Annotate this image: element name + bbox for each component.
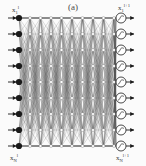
hidden-node xyxy=(92,129,95,132)
input-node[interactable] xyxy=(16,63,22,69)
hidden-node xyxy=(50,113,53,116)
hidden-node xyxy=(113,129,116,132)
hidden-node xyxy=(60,145,63,148)
output-node[interactable] xyxy=(116,109,126,119)
hidden-node xyxy=(29,49,32,52)
input-node[interactable] xyxy=(16,95,22,101)
hidden-node xyxy=(29,81,32,84)
hidden-node xyxy=(102,81,105,84)
hidden-node xyxy=(81,49,84,52)
input-arrowhead xyxy=(13,96,17,100)
hidden-node xyxy=(92,113,95,116)
output-arrowhead xyxy=(130,16,134,20)
hidden-node xyxy=(29,17,32,20)
hidden-node xyxy=(113,17,116,20)
output-arrowhead xyxy=(130,64,134,68)
hidden-node xyxy=(92,97,95,100)
hidden-node xyxy=(113,49,116,52)
hidden-node xyxy=(29,33,32,36)
hidden-node xyxy=(39,113,42,116)
hidden-node xyxy=(71,65,74,68)
input-node[interactable] xyxy=(16,143,22,149)
input-arrowhead xyxy=(13,48,17,52)
hidden-node xyxy=(39,145,42,148)
output-node[interactable] xyxy=(116,125,126,135)
hidden-node xyxy=(39,129,42,132)
hidden-node xyxy=(60,17,63,20)
hidden-node xyxy=(81,145,84,148)
hidden-node xyxy=(92,81,95,84)
output-arrowhead xyxy=(130,112,134,116)
output-arrowhead xyxy=(130,48,134,52)
hidden-node xyxy=(92,17,95,20)
output-node-group xyxy=(116,13,134,151)
input-node[interactable] xyxy=(16,79,22,85)
hidden-node xyxy=(81,81,84,84)
hidden-node xyxy=(50,49,53,52)
output-node[interactable] xyxy=(116,13,126,23)
hidden-node xyxy=(60,129,63,132)
hidden-node xyxy=(102,49,105,52)
hidden-node xyxy=(29,97,32,100)
hidden-node xyxy=(102,145,105,148)
hidden-node xyxy=(50,65,53,68)
hidden-node xyxy=(92,49,95,52)
input-node[interactable] xyxy=(16,47,22,53)
hidden-node xyxy=(60,81,63,84)
hidden-node xyxy=(39,17,42,20)
hidden-node xyxy=(60,113,63,116)
hidden-node xyxy=(39,81,42,84)
hidden-node xyxy=(60,49,63,52)
hidden-node xyxy=(71,113,74,116)
hidden-node xyxy=(81,129,84,132)
output-arrowhead xyxy=(130,32,134,36)
hidden-node xyxy=(39,49,42,52)
output-node[interactable] xyxy=(116,61,126,71)
hidden-node xyxy=(71,33,74,36)
input-arrowhead xyxy=(13,128,17,132)
neural-network-figure: (a) x1l xNl x1l+1 xNl+1 xyxy=(0,0,146,166)
hidden-node xyxy=(81,33,84,36)
input-arrowhead xyxy=(13,64,17,68)
hidden-node xyxy=(113,65,116,68)
input-arrowhead xyxy=(13,80,17,84)
hidden-node xyxy=(29,113,32,116)
output-node[interactable] xyxy=(116,141,126,151)
hidden-node xyxy=(81,17,84,20)
output-arrowhead xyxy=(130,96,134,100)
output-node[interactable] xyxy=(116,45,126,55)
input-arrowhead xyxy=(13,32,17,36)
node-group xyxy=(29,17,116,148)
output-node[interactable] xyxy=(116,93,126,103)
hidden-node xyxy=(92,65,95,68)
hidden-node xyxy=(102,113,105,116)
hidden-node xyxy=(39,65,42,68)
hidden-node xyxy=(71,81,74,84)
input-node[interactable] xyxy=(16,111,22,117)
hidden-node xyxy=(102,17,105,20)
input-arrowhead xyxy=(13,16,17,20)
network-canvas xyxy=(0,0,146,166)
hidden-node xyxy=(113,81,116,84)
input-arrowhead xyxy=(13,144,17,148)
hidden-node xyxy=(113,33,116,36)
hidden-node xyxy=(71,145,74,148)
hidden-node xyxy=(102,97,105,100)
output-arrowhead xyxy=(130,80,134,84)
output-node[interactable] xyxy=(116,77,126,87)
hidden-node xyxy=(81,65,84,68)
hidden-node xyxy=(60,65,63,68)
hidden-node xyxy=(50,129,53,132)
hidden-node xyxy=(50,81,53,84)
input-node[interactable] xyxy=(16,15,22,21)
hidden-node xyxy=(29,145,32,148)
hidden-node xyxy=(39,33,42,36)
hidden-node xyxy=(92,33,95,36)
hidden-node xyxy=(102,129,105,132)
hidden-node xyxy=(113,97,116,100)
input-node[interactable] xyxy=(16,31,22,37)
input-node[interactable] xyxy=(16,127,22,133)
hidden-node xyxy=(102,65,105,68)
hidden-node xyxy=(71,49,74,52)
output-node[interactable] xyxy=(116,29,126,39)
